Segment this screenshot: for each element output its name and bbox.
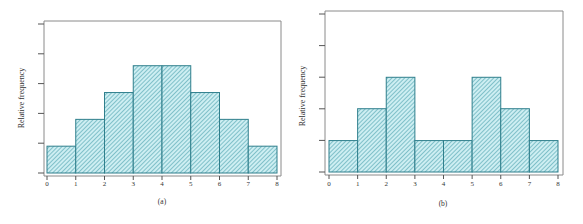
x-tick-label: 2: [385, 180, 389, 188]
x-tick-label: 0: [327, 180, 331, 188]
x-tick-label: 3: [413, 180, 417, 188]
histogram-bar: [220, 119, 249, 173]
x-tick-label: 1: [356, 180, 360, 188]
x-tick-label: 7: [528, 180, 532, 188]
histogram-panel-a: 012345678 Relative frequency (a): [0, 0, 291, 224]
histogram-bar: [329, 141, 358, 172]
histogram-panel-b: 012345678 Relative frequency (b): [291, 0, 583, 224]
x-tick-label: 0: [45, 180, 49, 188]
plot-area: 012345678: [319, 11, 563, 188]
y-axis-label: Relative frequency: [17, 68, 26, 129]
x-tick-label: 8: [556, 180, 560, 188]
x-tick-label: 5: [189, 180, 193, 188]
x-tick-label: 2: [103, 180, 107, 188]
x-tick-label: 6: [218, 180, 222, 188]
histogram-bar: [191, 93, 220, 173]
histogram-bar: [248, 146, 277, 173]
histogram-bar: [162, 66, 191, 173]
histogram-bar: [386, 77, 415, 172]
x-tick-label: 6: [499, 180, 503, 188]
histogram-a-svg: 012345678 Relative frequency (a): [0, 0, 291, 224]
panel-caption: (b): [439, 199, 448, 208]
histogram-bar: [444, 141, 473, 172]
x-tick-label: 5: [470, 180, 474, 188]
x-tick-label: 1: [74, 180, 78, 188]
histogram-bar: [76, 119, 105, 173]
histogram-bar: [358, 109, 387, 172]
x-tick-label: 3: [132, 180, 136, 188]
plot-area: 012345678: [38, 21, 281, 188]
x-tick-label: 4: [160, 180, 164, 188]
x-tick-label: 4: [442, 180, 446, 188]
histogram-bar: [47, 146, 76, 173]
histogram-bar: [501, 109, 530, 172]
histogram-b-svg: 012345678 Relative frequency (b): [291, 0, 583, 224]
x-tick-label: 8: [275, 180, 279, 188]
histogram-bar: [415, 141, 444, 172]
y-axis-label: Relative frequency: [298, 66, 307, 127]
histogram-bar: [472, 77, 501, 172]
histogram-bar: [133, 66, 162, 173]
panel-caption: (a): [158, 197, 167, 206]
x-tick-label: 7: [247, 180, 251, 188]
histogram-bar: [529, 141, 558, 172]
histogram-bar: [105, 93, 134, 173]
